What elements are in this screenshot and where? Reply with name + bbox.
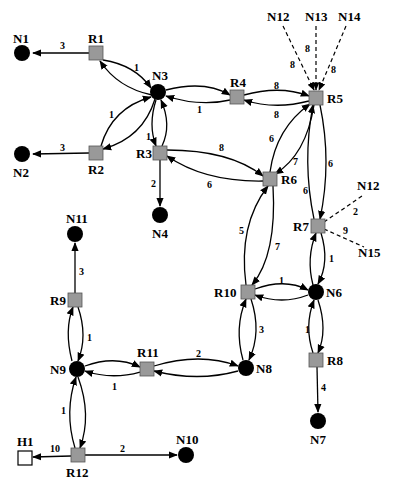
edge-r10-n8-a [249, 299, 256, 360]
node-n8[interactable] [238, 360, 254, 376]
weight-r12-n10: 2 [120, 443, 125, 454]
weight-r4-r5-top: 8 [274, 80, 279, 91]
weight-r7-n15: 9 [343, 225, 348, 236]
node-n3[interactable] [150, 84, 166, 100]
label-n15: N15 [358, 245, 381, 260]
edge-r10-n8-b [239, 299, 246, 360]
edge-r1-n3-b [100, 61, 152, 95]
weight-r6-r5-right: 7 [293, 156, 298, 167]
weight-r5-r7-left: 6 [303, 185, 308, 196]
weight-r9-n9: 1 [87, 332, 92, 343]
label-r1: R1 [88, 31, 104, 46]
node-n11[interactable] [67, 226, 83, 242]
router-r9[interactable] [68, 293, 82, 307]
weight-r10-r6-left: 5 [239, 225, 244, 236]
node-n7[interactable] [310, 413, 326, 429]
label-r4: R4 [230, 75, 246, 90]
weight-r3-r6-top: 8 [219, 142, 224, 153]
weight-r2-n3: 1 [109, 109, 114, 120]
router-r12[interactable] [71, 448, 85, 462]
network-diagram: 3 3 1 1 1 1 8 8 2 8 6 6 7 6 6 8 8 8 2 9 … [0, 0, 393, 486]
node-n4[interactable] [152, 207, 168, 223]
router-r3[interactable] [153, 146, 167, 160]
label-r6: R6 [281, 172, 297, 187]
node-n10[interactable] [178, 447, 194, 463]
label-r9: R9 [50, 293, 66, 308]
weight-r4-r5-bottom: 8 [274, 109, 279, 120]
weight-r1-n1: 3 [60, 40, 65, 51]
label-n13: N13 [305, 9, 328, 24]
router-r7[interactable] [311, 219, 325, 233]
weight-r6-r5-left: 6 [269, 133, 274, 144]
router-r4[interactable] [230, 90, 244, 104]
edge-r10-r6-a [244, 186, 268, 285]
edge-r4-r5-b [244, 100, 309, 105]
edge-r11-n8-b [154, 371, 238, 377]
edge-n14-r5 [319, 26, 346, 90]
label-n12-right: N12 [357, 178, 379, 193]
edge-r7-n6-b [310, 233, 316, 285]
label-r10: R10 [214, 285, 236, 300]
label-n3: N3 [152, 68, 168, 83]
edge-n6-r8-a [318, 300, 323, 353]
label-n2: N2 [13, 165, 29, 180]
weight-r12-h1: 10 [50, 443, 60, 454]
router-r1[interactable] [89, 46, 103, 60]
weight-r3-r6-bottom: 6 [207, 179, 212, 190]
network-nodes [14, 45, 326, 463]
weight-r11-n8: 2 [196, 348, 201, 359]
weight-r7-n12: 2 [353, 206, 358, 217]
weight-r10-n6: 1 [279, 275, 284, 286]
host-h1[interactable] [18, 451, 32, 465]
weight-n6-r8: 1 [305, 324, 310, 335]
edge-n9-r12-b [70, 377, 76, 448]
edge-r3-r6-a [167, 150, 263, 176]
edge-r8-n7 [317, 367, 318, 412]
edge-r5-r7-a [320, 105, 326, 219]
weight-r5-r7-right: 6 [328, 158, 333, 169]
edge-r5-r7-b [308, 105, 314, 219]
label-n10: N10 [176, 432, 198, 447]
router-r5[interactable] [309, 91, 323, 105]
label-r2: R2 [88, 162, 104, 177]
edge-n9-r11-a [85, 361, 140, 367]
router-r10[interactable] [241, 285, 255, 299]
weight-n13-r5: 8 [305, 43, 310, 54]
edge-r4-r5-a [244, 90, 309, 96]
node-n9[interactable] [69, 361, 85, 377]
router-r11[interactable] [140, 362, 154, 376]
label-n8: N8 [256, 361, 272, 376]
router-r2[interactable] [89, 146, 103, 160]
weight-n9-r11: 1 [112, 381, 117, 392]
label-h1: H1 [17, 434, 34, 449]
edge-n12-r5 [283, 26, 314, 90]
label-r12: R12 [66, 465, 88, 480]
router-r6[interactable] [263, 172, 277, 186]
edge-n9-r11-b [85, 371, 140, 376]
label-n7: N7 [310, 432, 326, 447]
router-r8[interactable] [309, 353, 323, 367]
node-n1[interactable] [14, 45, 30, 61]
label-r7: R7 [293, 219, 309, 234]
label-r11: R11 [137, 345, 159, 360]
label-r3: R3 [136, 146, 152, 161]
edge-r11-n8-a [154, 359, 238, 366]
edge-r12-h1 [33, 456, 71, 457]
weight-n9-r12: 1 [61, 405, 66, 416]
weight-r8-n7: 4 [321, 382, 326, 393]
edge-r7-n6-a [318, 233, 325, 284]
label-r5: R5 [327, 91, 343, 106]
label-n9: N9 [50, 362, 66, 377]
weight-n14-r5: 8 [331, 64, 336, 75]
label-n4: N4 [152, 226, 168, 241]
edge-r2-n2 [33, 153, 89, 154]
weight-r10-n8: 3 [259, 324, 264, 335]
label-r8: R8 [327, 353, 343, 368]
node-n6[interactable] [308, 284, 324, 300]
edge-n9-r12-a [78, 377, 86, 448]
weight-r9-n11: 3 [79, 266, 84, 277]
node-n2[interactable] [14, 146, 30, 162]
edge-n3-r4-b [166, 96, 230, 103]
weight-n3-r4: 1 [197, 104, 202, 115]
edge-r9-n9-a [78, 307, 83, 361]
